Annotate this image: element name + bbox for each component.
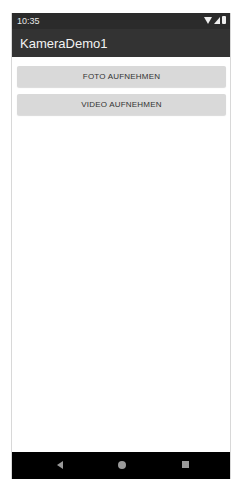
app-title: KameraDemo1 bbox=[20, 36, 107, 51]
signal-icon bbox=[214, 17, 220, 24]
wifi-icon bbox=[204, 17, 212, 24]
recents-icon[interactable] bbox=[182, 461, 189, 468]
back-icon[interactable] bbox=[57, 461, 63, 469]
status-bar: 10:35 bbox=[12, 13, 230, 29]
device-screen: 10:35 KameraDemo1 FOTO AUFNEHMEN VIDEO A… bbox=[11, 13, 231, 479]
take-video-button[interactable]: VIDEO AUFNEHMEN bbox=[17, 94, 226, 115]
navigation-bar bbox=[12, 452, 230, 479]
home-icon[interactable] bbox=[118, 461, 126, 469]
battery-icon bbox=[222, 16, 226, 24]
status-icons bbox=[204, 16, 226, 24]
status-time: 10:35 bbox=[17, 16, 40, 26]
take-photo-button[interactable]: FOTO AUFNEHMEN bbox=[17, 66, 226, 87]
app-bar: KameraDemo1 bbox=[12, 29, 230, 57]
